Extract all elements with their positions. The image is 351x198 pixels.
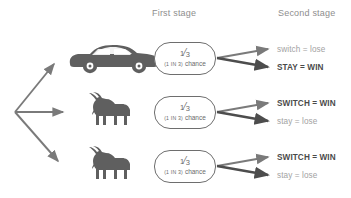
- column-header-second-stage: Second stage: [278, 8, 335, 18]
- probability-sublabel: (1 IN 3) chance: [164, 168, 206, 176]
- branch-arrow-goat-2: [15, 112, 58, 161]
- outcome-arrow-stay-win-1: [217, 58, 268, 67]
- probability-sublabel-caps: (1 IN 3): [164, 169, 183, 175]
- monty-hall-diagram: First stage Second stage 1⁄3 (1 IN 3) ch…: [0, 0, 351, 198]
- probability-fraction: 1⁄3: [180, 157, 190, 167]
- probability-sublabel-rest: chance: [185, 168, 206, 175]
- second-stage-arrows-row-1: [217, 49, 268, 67]
- outcome-label-stay-win: STAY = WIN: [277, 63, 324, 72]
- second-stage-arrows-row-3: [217, 157, 268, 175]
- probability-sublabel-caps: (1 IN 3): [164, 115, 183, 121]
- sports-car-icon: [70, 45, 159, 73]
- probability-sublabel-rest: chance: [185, 60, 206, 67]
- outcome-arrow-stay-lose-2: [217, 112, 268, 121]
- fraction-denominator: 3: [186, 104, 190, 113]
- outcome-arrow-switch-lose-1: [217, 49, 268, 58]
- outcome-label-switch-win: SWITCH = WIN: [277, 99, 336, 108]
- probability-sublabel-rest: chance: [185, 114, 206, 121]
- outcome-label-stay-lose: stay = lose: [277, 171, 317, 180]
- goat-icon: [89, 146, 130, 179]
- probability-node: 1⁄3 (1 IN 3) chance: [154, 96, 216, 129]
- outcome-label-switch-win: SWITCH = WIN: [277, 153, 336, 162]
- outcome-label-switch-lose: switch = lose: [277, 45, 325, 54]
- outcome-arrow-switch-win-2: [217, 103, 268, 112]
- probability-sublabel: (1 IN 3) chance: [164, 60, 206, 68]
- fraction-denominator: 3: [186, 50, 190, 59]
- probability-node: 1⁄3 (1 IN 3) chance: [154, 42, 216, 75]
- outcome-arrow-stay-lose-3: [217, 166, 268, 175]
- column-header-first-stage: First stage: [152, 8, 196, 18]
- goat-icon: [89, 92, 130, 125]
- fraction-denominator: 3: [186, 158, 190, 167]
- probability-sublabel: (1 IN 3) chance: [164, 114, 206, 122]
- probability-sublabel-caps: (1 IN 3): [164, 61, 183, 67]
- probability-node: 1⁄3 (1 IN 3) chance: [154, 150, 216, 183]
- outcome-label-stay-lose: stay = lose: [277, 117, 317, 126]
- probability-fraction: 1⁄3: [180, 103, 190, 113]
- second-stage-arrows-row-2: [217, 103, 268, 121]
- first-stage-branch-arrows: [15, 64, 63, 161]
- branch-arrow-car: [15, 64, 54, 112]
- probability-fraction: 1⁄3: [180, 49, 190, 59]
- outcome-arrow-switch-win-3: [217, 157, 268, 166]
